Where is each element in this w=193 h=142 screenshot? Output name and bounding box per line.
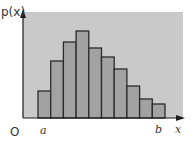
histogram-bar <box>89 48 102 118</box>
histogram-bar <box>152 104 165 118</box>
x-marker-a: a <box>40 125 47 136</box>
x-axis-label: x <box>175 124 181 135</box>
origin-label: O <box>10 126 19 138</box>
histogram-bar <box>51 61 64 118</box>
histogram-bar <box>76 31 89 118</box>
histogram-bar <box>102 57 115 118</box>
x-marker-b: b <box>155 124 162 135</box>
histogram-chart <box>0 0 193 142</box>
histogram-bar <box>38 91 51 118</box>
histogram-bar <box>140 99 153 118</box>
histogram-bar <box>114 69 127 118</box>
histogram-bar <box>63 42 76 118</box>
histogram-bar <box>127 86 140 118</box>
y-axis-label: p(x) <box>1 6 25 18</box>
